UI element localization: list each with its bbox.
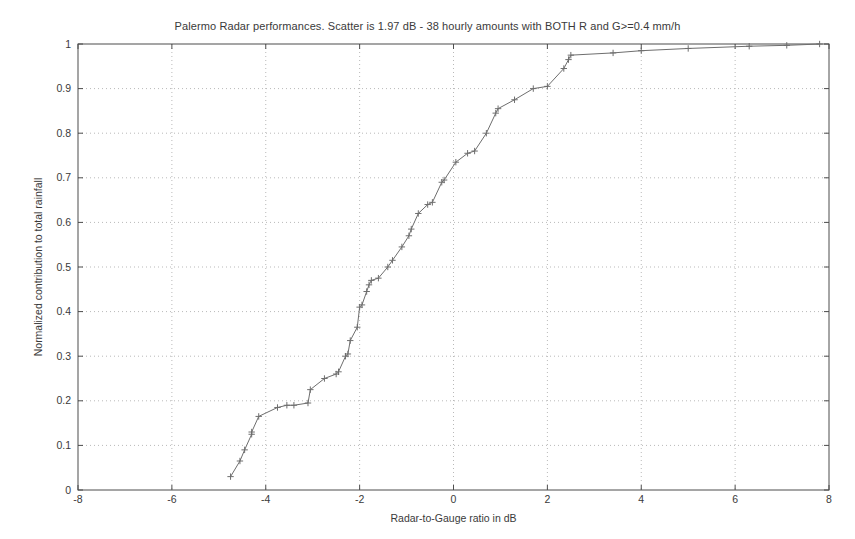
x-tick-label: -4 [261, 493, 270, 505]
tick-label-layer: -8-6-4-20246800.10.20.30.40.50.60.70.80.… [56, 38, 832, 506]
data-point-marker [284, 402, 290, 408]
x-tick-label: -6 [167, 493, 176, 505]
data-point-marker [784, 42, 790, 48]
x-tick-label: -2 [355, 493, 364, 505]
y-axis-label: Normalized contribution to total rainfal… [32, 178, 44, 357]
y-tick-label: 0.7 [56, 171, 71, 183]
data-point-marker [274, 404, 280, 410]
data-point-marker [685, 45, 691, 51]
series-line [231, 44, 820, 477]
data-point-marker [291, 402, 297, 408]
data-point-marker [241, 447, 247, 453]
data-point-marker [408, 226, 414, 232]
y-tick-label: 0.8 [56, 127, 71, 139]
x-axis-label: Radar-to-Gauge ratio in dB [390, 512, 516, 524]
data-point-marker [638, 47, 644, 53]
data-point-marker [256, 413, 262, 419]
data-point-marker [511, 97, 517, 103]
data-point-marker [363, 288, 369, 294]
data-point-marker [610, 50, 616, 56]
figure-canvas: Palermo Radar performances. Scatter is 1… [0, 0, 855, 539]
data-point-marker [471, 148, 477, 154]
data-point-marker [399, 244, 405, 250]
x-tick-label: 8 [826, 493, 832, 505]
y-tick-label: 0.2 [56, 394, 71, 406]
y-tick-label: 0.9 [56, 82, 71, 94]
y-tick-label: 0.4 [56, 305, 71, 317]
x-tick-label: 2 [544, 493, 550, 505]
y-tick-label: 0.5 [56, 261, 71, 273]
data-point-marker [530, 85, 536, 91]
y-tick-label: 1 [65, 38, 71, 50]
data-point-marker [227, 473, 233, 479]
data-point-marker [347, 337, 353, 343]
x-tick-label: 0 [451, 493, 457, 505]
data-point-marker [237, 458, 243, 464]
data-point-marker [406, 233, 412, 239]
x-tick-label: -8 [73, 493, 82, 505]
plot-area: -8-6-4-20246800.10.20.30.40.50.60.70.80.… [0, 0, 855, 539]
grid-layer [78, 44, 829, 490]
series-markers [227, 41, 822, 480]
data-point-marker [483, 130, 489, 136]
y-tick-label: 0.3 [56, 350, 71, 362]
y-tick-label: 0.6 [56, 216, 71, 228]
y-tick-label: 0.1 [56, 439, 71, 451]
data-point-marker [389, 257, 395, 263]
y-tick-label: 0 [65, 484, 71, 496]
data-point-marker [816, 41, 822, 47]
x-tick-label: 4 [638, 493, 644, 505]
x-tick-label: 6 [732, 493, 738, 505]
